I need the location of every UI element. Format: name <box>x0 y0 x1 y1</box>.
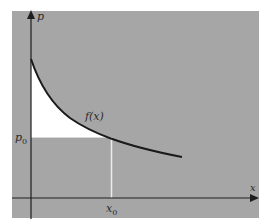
economics-diagram: p x f(x) p0 x0 <box>0 0 266 223</box>
x0-label-subscript: 0 <box>112 208 117 217</box>
x-axis-label: x <box>250 182 256 193</box>
p0-label-main: p <box>15 131 22 144</box>
curve-label: f(x) <box>84 110 104 123</box>
p0-label-subscript: 0 <box>22 137 27 146</box>
y-axis-label: p <box>37 10 44 23</box>
diagram-canvas: p x f(x) p0 x0 <box>0 0 266 223</box>
